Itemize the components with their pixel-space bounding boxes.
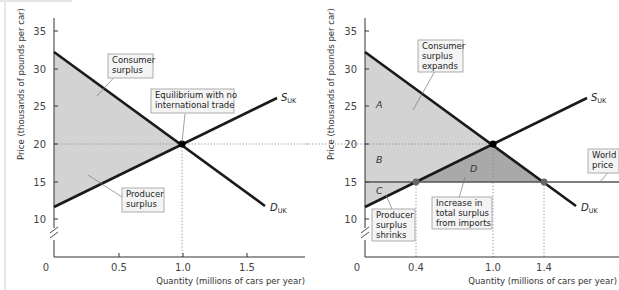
region-a-label: A xyxy=(375,99,383,110)
domestic-consumption-point xyxy=(541,179,548,186)
y-tick-label: 20 xyxy=(344,139,357,150)
x-tick-label: 1.0 xyxy=(485,262,501,273)
y-tick-label: 30 xyxy=(344,64,357,75)
x-tick-label: 1.0 xyxy=(175,262,191,273)
world-price-label: Worldprice xyxy=(592,150,616,170)
leader-line xyxy=(182,114,185,142)
left-panel: 35 30 25 20 15 10 0 0.5 1.0 1.5 Quantity… xyxy=(16,8,310,286)
axis-break-icon xyxy=(50,232,58,238)
y-tick-label: 35 xyxy=(344,26,357,37)
demand-label: DUK xyxy=(581,202,598,215)
x-tick-label: 1.5 xyxy=(239,262,255,273)
x-tick-label: 0 xyxy=(354,262,360,273)
x-ticks: 0 0.4 1.0 1.4 xyxy=(354,262,552,273)
x-tick-label: 0 xyxy=(43,262,49,273)
x-axis-title: Quantity (millions of cars per year) xyxy=(156,276,305,286)
x-ticks: 0 0.5 1.0 1.5 xyxy=(43,253,255,273)
header-strip xyxy=(0,0,72,2)
trade-surplus-chart: 35 30 25 20 15 10 0 0.5 1.0 1.5 Quantity… xyxy=(0,0,619,290)
y-tick-label: 10 xyxy=(33,214,46,225)
region-d-label: D xyxy=(470,163,477,174)
y-tick-label: 25 xyxy=(33,101,46,112)
equilibrium-label: Equilibrium with nointernational trade xyxy=(155,90,237,110)
domestic-production-point xyxy=(413,179,420,186)
supply-label: SUK xyxy=(281,92,297,105)
y-tick-label: 30 xyxy=(33,64,46,75)
y-tick-label: 15 xyxy=(33,177,46,188)
y-axis-title: Price (thousands of pounds per car) xyxy=(326,8,336,160)
x-tick-label: 0.5 xyxy=(111,262,127,273)
right-panel: 35 30 25 20 15 10 0 0.4 1.0 1.4 Quantity… xyxy=(306,8,619,286)
y-tick-label: 35 xyxy=(33,26,46,37)
no-trade-equilibrium-point xyxy=(489,140,496,147)
region-c-label: C xyxy=(376,185,383,196)
leader-line xyxy=(386,195,392,209)
y-axis-title: Price (thousands of pounds per car) xyxy=(16,8,26,160)
y-tick-label: 25 xyxy=(344,101,357,112)
y-tick-label: 20 xyxy=(33,139,46,150)
x-tick-label: 1.4 xyxy=(536,262,552,273)
y-tick-label: 10 xyxy=(344,214,357,225)
y-tick-label: 15 xyxy=(344,177,357,188)
x-tick-label: 0.4 xyxy=(408,262,424,273)
region-b-label: B xyxy=(376,154,383,165)
supply-label: SUK xyxy=(591,92,607,105)
axis-break-icon xyxy=(361,232,369,238)
x-axis-title: Quantity (millions of cars per year) xyxy=(468,276,617,286)
demand-label: DUK xyxy=(270,202,287,215)
